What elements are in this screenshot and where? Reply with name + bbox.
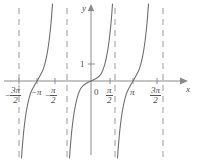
x-tick-label-pi: π <box>130 88 135 97</box>
fraction-denominator: 2 <box>12 96 19 105</box>
x-tick-label-neg-pi-over-2: −π2 <box>45 86 57 105</box>
y-tick-label-one: 1 <box>80 59 85 69</box>
origin-label: 0 <box>94 87 99 97</box>
x-axis-label: x <box>186 84 190 94</box>
tangent-function-graph: −3π2 −π −π2 0 π2 π 3π2 1 x y <box>0 0 197 161</box>
y-axis <box>88 4 94 155</box>
fraction-denominator: 2 <box>50 96 57 105</box>
plot-area <box>0 0 197 161</box>
y-axis-label: y <box>82 3 86 13</box>
fraction-denominator: 2 <box>106 96 113 105</box>
x-tick-label-3pi-over-2: 3π2 <box>150 86 161 105</box>
x-tick-label-neg-pi: −π <box>31 88 42 97</box>
fraction-denominator: 2 <box>152 96 159 105</box>
x-tick-label-neg-3pi-over-2: −3π2 <box>5 86 21 105</box>
x-tick-label-pi-over-2: π2 <box>106 86 113 105</box>
